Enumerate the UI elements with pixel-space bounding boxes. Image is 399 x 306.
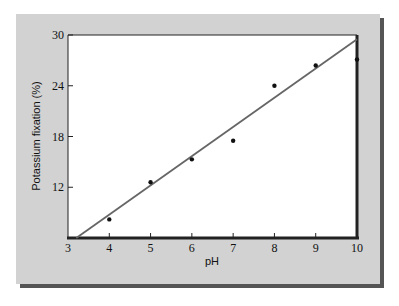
data-point — [272, 84, 276, 88]
x-tick-label: 3 — [65, 241, 71, 255]
x-axis-label: pH — [205, 255, 219, 267]
y-tick-label: 12 — [52, 180, 64, 194]
x-tick-labels: 345678910 — [65, 241, 363, 255]
x-tick-label: 4 — [106, 241, 112, 255]
x-tick-label: 6 — [189, 241, 195, 255]
data-point — [231, 139, 235, 143]
data-point — [190, 157, 194, 161]
y-tick-label: 30 — [52, 28, 64, 42]
data-point — [314, 63, 318, 67]
x-tick-label: 7 — [230, 241, 236, 255]
x-tick-label: 9 — [313, 241, 319, 255]
data-point — [148, 180, 152, 184]
data-point — [107, 217, 111, 221]
y-axis-label: Potassium fixation (%) — [30, 81, 42, 190]
chart: 345678910 12182430 pH Potassium fixation… — [0, 0, 399, 306]
y-tick-label: 24 — [52, 79, 64, 93]
x-tick-label: 8 — [271, 241, 277, 255]
x-tick-label: 10 — [351, 241, 363, 255]
x-tick-label: 5 — [148, 241, 154, 255]
data-point — [355, 57, 359, 61]
y-tick-labels: 12182430 — [52, 28, 64, 194]
y-tick-label: 18 — [52, 130, 64, 144]
